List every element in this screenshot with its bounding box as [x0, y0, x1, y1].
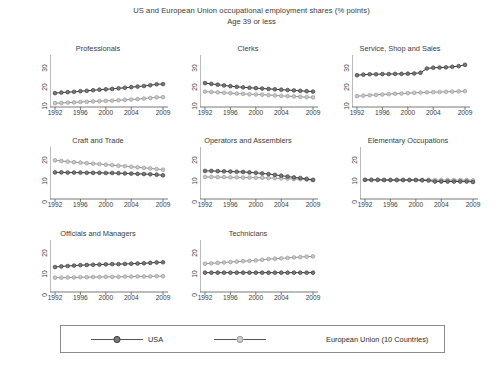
data-point-eu — [311, 96, 315, 100]
data-point-eu — [444, 90, 448, 94]
data-point-usa — [254, 86, 258, 90]
series-line-usa — [357, 65, 465, 75]
series-line-eu — [55, 97, 163, 103]
data-point-usa — [406, 72, 410, 76]
y-tick-label: 20 — [191, 83, 198, 90]
data-point-usa — [60, 171, 64, 175]
data-point-usa — [161, 82, 165, 86]
data-point-usa — [279, 271, 283, 275]
data-point-usa — [267, 87, 271, 91]
data-point-eu — [161, 95, 165, 99]
data-point-usa — [203, 81, 207, 85]
data-point-usa — [446, 180, 450, 184]
data-point-eu — [85, 100, 89, 104]
data-point-eu — [104, 275, 108, 279]
data-point-eu — [72, 160, 76, 164]
data-point-eu — [53, 101, 57, 105]
data-point-eu — [241, 259, 245, 263]
data-point-usa — [66, 264, 70, 268]
data-point-usa — [254, 271, 258, 275]
data-point-usa — [311, 90, 315, 94]
data-point-usa — [210, 169, 214, 173]
data-point-usa — [286, 271, 290, 275]
data-point-usa — [311, 271, 315, 275]
panel-title: Service, Shop and Sales — [330, 44, 470, 53]
series-line-usa — [55, 172, 163, 175]
data-point-usa — [355, 73, 359, 77]
data-point-eu — [79, 275, 83, 279]
data-point-eu — [368, 93, 372, 97]
plot-area: 01020 — [200, 147, 318, 211]
panel-svg — [50, 240, 168, 304]
data-point-eu — [155, 167, 159, 171]
data-point-eu — [260, 176, 264, 180]
data-point-usa — [292, 176, 296, 180]
data-point-eu — [155, 274, 159, 278]
data-point-eu — [235, 260, 239, 264]
data-point-eu — [298, 95, 302, 99]
data-point-usa — [235, 85, 239, 89]
chart-legend: USA European Union (10 Countries) — [60, 325, 445, 353]
data-point-eu — [279, 256, 283, 260]
panel-title: Technicians — [178, 229, 318, 238]
data-point-eu — [129, 165, 133, 169]
data-point-eu — [53, 276, 57, 280]
data-point-usa — [305, 89, 309, 93]
data-point-eu — [129, 98, 133, 102]
data-point-eu — [222, 175, 226, 179]
y-tick-label: 0 — [41, 200, 48, 204]
data-point-eu — [267, 93, 271, 97]
data-point-usa — [241, 271, 245, 275]
plot-area: 102030 — [50, 55, 168, 119]
data-point-eu — [229, 176, 233, 180]
panel-svg — [200, 55, 318, 119]
data-point-usa — [395, 178, 399, 182]
data-point-usa — [292, 89, 296, 93]
data-point-eu — [91, 100, 95, 104]
data-point-usa — [305, 177, 309, 181]
data-point-usa — [85, 263, 89, 267]
data-point-usa — [267, 172, 271, 176]
data-point-eu — [142, 275, 146, 279]
data-point-eu — [66, 160, 70, 164]
data-point-eu — [235, 176, 239, 180]
data-point-eu — [286, 256, 290, 260]
data-point-eu — [248, 92, 252, 96]
data-point-eu — [241, 176, 245, 180]
data-point-eu — [292, 256, 296, 260]
data-point-usa — [79, 263, 83, 267]
data-point-usa — [91, 171, 95, 175]
data-point-usa — [53, 265, 57, 269]
data-point-usa — [85, 171, 89, 175]
panel-svg — [360, 147, 478, 211]
data-point-usa — [438, 66, 442, 70]
data-point-eu — [117, 98, 121, 102]
data-point-eu — [136, 166, 140, 170]
panel-title: Clerks — [178, 44, 318, 53]
y-tick-label: 10 — [41, 103, 48, 110]
data-point-usa — [400, 72, 404, 76]
data-point-eu — [305, 95, 309, 99]
data-point-eu — [400, 92, 404, 96]
chart-title: US and European Union occupational emplo… — [0, 5, 503, 16]
series-line-eu — [357, 91, 465, 96]
data-point-usa — [248, 171, 252, 175]
data-point-eu — [203, 175, 207, 179]
data-point-usa — [260, 271, 264, 275]
data-point-eu — [267, 176, 271, 180]
y-tick-label: 10 — [41, 177, 48, 184]
data-point-usa — [110, 87, 114, 91]
plot-area: 01020 — [360, 147, 478, 211]
data-point-usa — [222, 169, 226, 173]
data-point-usa — [286, 88, 290, 92]
data-point-usa — [98, 263, 102, 267]
data-point-eu — [254, 93, 258, 97]
data-point-usa — [248, 86, 252, 90]
data-point-usa — [79, 89, 83, 93]
panel-svg — [352, 55, 470, 119]
data-point-usa — [229, 170, 233, 174]
data-point-usa — [254, 171, 258, 175]
data-point-usa — [465, 180, 469, 184]
data-point-usa — [382, 178, 386, 182]
data-point-eu — [66, 101, 70, 105]
